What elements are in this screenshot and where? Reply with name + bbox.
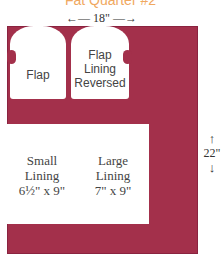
flap-lining-line2: Lining [71, 62, 129, 76]
large-lining-piece: Large Lining 7" x 9" [77, 124, 149, 224]
large-lining-size: 7" x 9" [77, 183, 149, 198]
flap-lining-piece: Flap Lining Reversed [71, 26, 129, 99]
small-lining-size: 6½" x 9" [7, 183, 77, 198]
small-lining-piece: Small Lining 6½" x 9" [7, 124, 78, 224]
small-lining-line2: Lining [7, 168, 77, 183]
flap-piece: Flap [10, 26, 66, 99]
height-value: 22" [204, 146, 221, 160]
diagram-title: Fat Quarter #2 [0, 0, 221, 8]
down-arrow-icon: ↓ [202, 161, 221, 175]
small-lining-line1: Small [7, 153, 77, 168]
up-arrow-icon: ↑ [202, 132, 221, 146]
width-dimension: ←— 18" —→ [66, 11, 136, 26]
notch-left [7, 50, 16, 64]
flap-lining-line3: Reversed [71, 76, 129, 90]
flap-label: Flap [10, 68, 66, 82]
large-lining-line2: Lining [77, 168, 149, 183]
flap-lining-line1: Flap [71, 48, 129, 62]
height-dimension: ↑ 22" ↓ [202, 132, 221, 175]
large-lining-line1: Large [77, 153, 149, 168]
fabric-rectangle: Flap Flap Lining Reversed Small Lining 6… [7, 26, 198, 254]
